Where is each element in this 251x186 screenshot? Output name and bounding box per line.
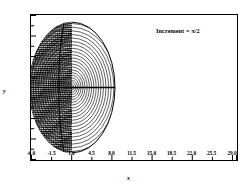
chart-figure: 12.2 8.8 5.2 1.8 -1.8 -5.2 -8.8 -12.2 -6… bbox=[0, 0, 251, 186]
focus-point bbox=[71, 86, 73, 88]
plot-area bbox=[30, 14, 238, 161]
x-axis-title: x bbox=[127, 175, 130, 181]
contour-plot-svg bbox=[31, 15, 237, 160]
y-axis-title: y bbox=[3, 88, 6, 94]
x-tick-group bbox=[32, 155, 237, 160]
